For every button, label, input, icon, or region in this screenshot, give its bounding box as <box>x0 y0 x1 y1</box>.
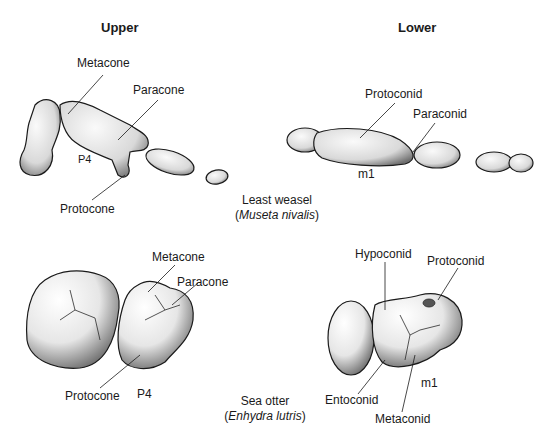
weasel-species-caption: Least weasel (Museta nivalis) <box>222 193 332 223</box>
otter-p4-label: P4 <box>137 387 152 401</box>
otter-m1-label: m1 <box>421 376 438 390</box>
otter-scientific-name: (Enhydra lutris) <box>210 409 320 424</box>
upper-header: Upper <box>101 20 139 35</box>
weasel-protocone-label: Protocone <box>60 202 115 216</box>
leader-otter-protoconid <box>438 268 458 300</box>
weasel-common-name: Least weasel <box>222 193 332 208</box>
weasel-scientific-name: (Museta nivalis) <box>222 208 332 223</box>
leader-otter-protocone <box>100 355 140 388</box>
leader-weasel-protocone <box>92 175 125 200</box>
otter-hypoconid-label: Hypoconid <box>355 247 412 261</box>
weasel-p4-label: P4 <box>78 152 91 166</box>
otter-species-caption: Sea otter (Enhydra lutris) <box>210 394 320 424</box>
weasel-m1-label: m1 <box>358 167 375 181</box>
weasel-lower-teeth <box>287 128 533 172</box>
weasel-metacone-label: Metacone <box>77 56 130 70</box>
otter-protocone-label: Protocone <box>65 389 120 403</box>
weasel-paraconid-label: Paraconid <box>413 107 467 121</box>
otter-entoconid-label: Entoconid <box>325 393 378 407</box>
weasel-paracone-label: Paracone <box>133 83 184 97</box>
otter-protoconid-label: Protoconid <box>427 254 484 268</box>
otter-metaconid-label: Metaconid <box>375 412 430 426</box>
otter-paracone-label: Paracone <box>177 275 228 289</box>
otter-upper-teeth <box>27 271 194 369</box>
weasel-protoconid-label: Protoconid <box>365 87 422 101</box>
lower-header: Lower <box>398 20 436 35</box>
otter-lower-teeth <box>328 294 462 375</box>
otter-common-name: Sea otter <box>210 394 320 409</box>
otter-metacone-label: Metacone <box>152 250 205 264</box>
weasel-upper-teeth <box>20 100 229 186</box>
